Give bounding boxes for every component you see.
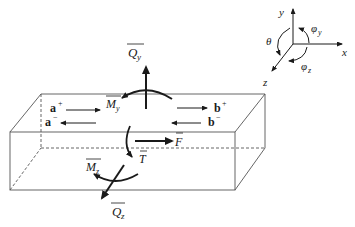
svg-text:−: − — [216, 113, 221, 122]
svg-text:b: b — [208, 115, 215, 129]
my-label: M y — [105, 96, 121, 113]
svg-text:T: T — [139, 152, 147, 166]
phi-z-label: φ z — [301, 60, 312, 75]
svg-text:z: z — [307, 66, 312, 75]
box-hidden-diagonal-edge — [10, 148, 41, 190]
svg-text:+: + — [58, 99, 63, 108]
t-label: T — [139, 151, 147, 166]
svg-text:y: y — [317, 28, 322, 37]
svg-text:a: a — [45, 115, 51, 129]
box-right-bottom-edge — [235, 148, 265, 190]
qz-label: Q z — [111, 203, 125, 221]
svg-text:y: y — [115, 104, 120, 113]
t-torsion-arc-icon — [126, 126, 132, 157]
svg-text:y: y — [136, 52, 141, 62]
x-axis-label: x — [341, 46, 347, 58]
qy-label: Q y — [127, 44, 144, 62]
phi-z-rotation-arc-icon — [289, 47, 307, 61]
box-top-right-edge — [235, 94, 265, 132]
svg-text:−: − — [53, 113, 58, 122]
z-axis-arrow-icon — [272, 44, 293, 71]
svg-text:F: F — [174, 135, 183, 149]
theta-label: θ — [266, 35, 272, 47]
svg-text:φ: φ — [301, 60, 307, 72]
phi-y-rotation-arc-icon — [299, 28, 309, 43]
coordinate-axes: y x z θ φ y φ z — [262, 6, 347, 88]
box-top-left-edge — [10, 94, 41, 132]
b-minus-label: b − — [208, 113, 221, 129]
box-front-face — [10, 132, 235, 190]
svg-text:+: + — [222, 99, 227, 108]
phi-y-label: φ y — [311, 22, 322, 37]
svg-text:z: z — [120, 211, 125, 221]
a-minus-label: a − — [45, 113, 58, 129]
svg-text:φ: φ — [311, 22, 317, 34]
f-label: F — [174, 133, 183, 149]
z-axis-label: z — [262, 76, 268, 88]
beam-force-diagram: Q y M y a + a − b + b − F T — [0, 0, 355, 227]
y-axis-label: y — [278, 6, 284, 18]
mz-label: M z — [85, 159, 101, 176]
svg-text:z: z — [95, 167, 100, 176]
